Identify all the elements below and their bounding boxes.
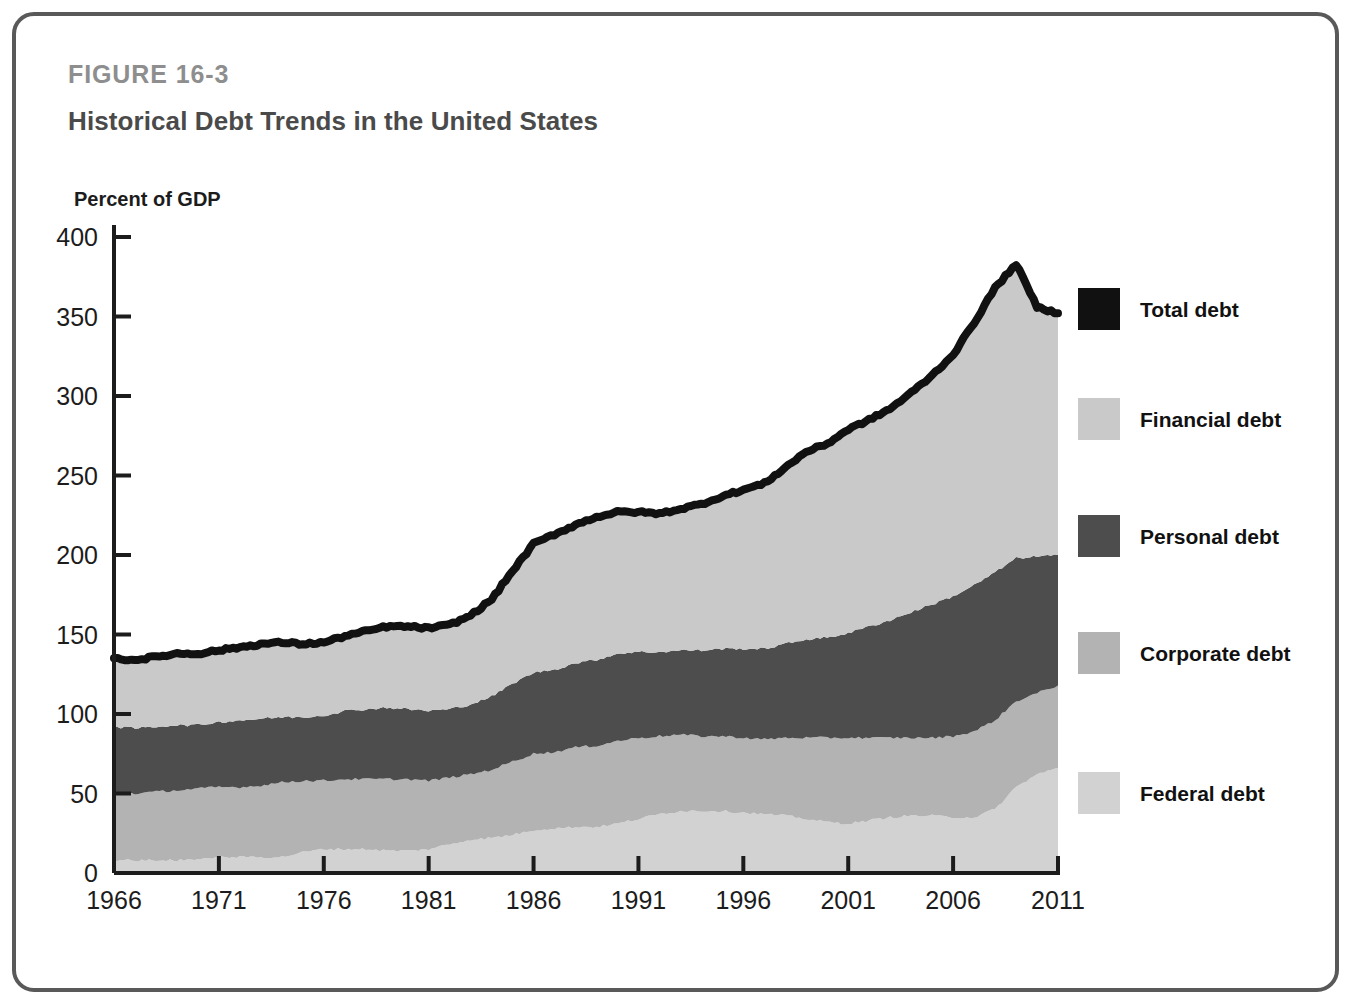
y-axis-tick-label: 100 xyxy=(56,700,98,728)
y-axis-tick-label: 250 xyxy=(56,462,98,490)
legend-label-personal-debt: Personal debt xyxy=(1140,525,1279,549)
x-axis-tick-label: 2001 xyxy=(820,886,876,914)
y-axis-tick-label: 150 xyxy=(56,621,98,649)
legend-label-total-debt: Total debt xyxy=(1140,298,1239,322)
legend-swatch-financial-debt xyxy=(1078,398,1120,440)
y-axis-tick-label: 350 xyxy=(56,303,98,331)
x-axis-tick-label: 1996 xyxy=(716,886,772,914)
legend-swatch-total-debt xyxy=(1078,288,1120,330)
x-axis-tick-label: 2006 xyxy=(925,886,981,914)
y-axis-tick-label: 400 xyxy=(56,223,98,251)
x-axis-tick-label: 1971 xyxy=(191,886,247,914)
legend-label-financial-debt: Financial debt xyxy=(1140,408,1281,432)
legend-swatch-personal-debt xyxy=(1078,515,1120,557)
legend-swatch-federal-debt xyxy=(1078,772,1120,814)
legend-swatch-corporate-debt xyxy=(1078,632,1120,674)
y-axis-tick-label: 0 xyxy=(84,859,98,887)
y-axis-tick-label: 50 xyxy=(70,780,98,808)
x-axis-tick-label: 1976 xyxy=(296,886,352,914)
x-axis-tick-label: 1966 xyxy=(86,886,142,914)
x-axis-tick-label: 2011 xyxy=(1031,886,1085,914)
x-axis-tick-label: 1981 xyxy=(401,886,457,914)
legend-label-corporate-debt: Corporate debt xyxy=(1140,642,1291,666)
legend-label-federal-debt: Federal debt xyxy=(1140,782,1265,806)
x-axis-tick-label: 1986 xyxy=(506,886,562,914)
x-axis-tick-label: 1991 xyxy=(611,886,667,914)
y-axis-tick-label: 200 xyxy=(56,541,98,569)
y-axis-tick-label: 300 xyxy=(56,382,98,410)
